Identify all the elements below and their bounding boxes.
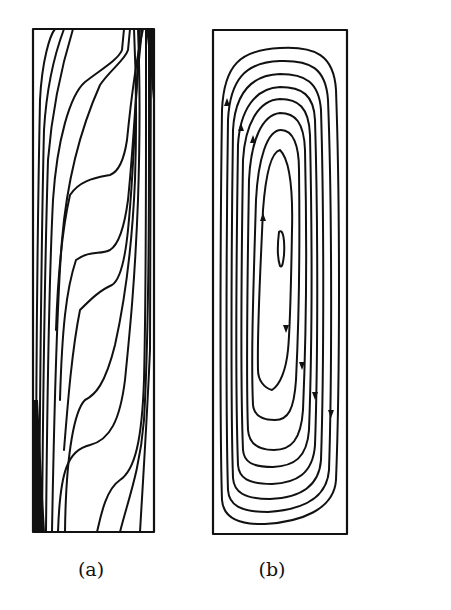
arrow-up-icon: [238, 123, 244, 131]
vortex-core: [278, 231, 284, 266]
arrow-down-icon: [328, 410, 334, 418]
streamline-loops: [221, 48, 340, 524]
arrow-up-icon: [260, 213, 266, 221]
panel-b-label: (b): [242, 558, 302, 580]
arrow-up-icon: [224, 98, 230, 106]
panel-a-label: (a): [61, 558, 121, 580]
arrow-down-icon: [283, 325, 289, 333]
panel-b-streamlines: [0, 0, 451, 610]
